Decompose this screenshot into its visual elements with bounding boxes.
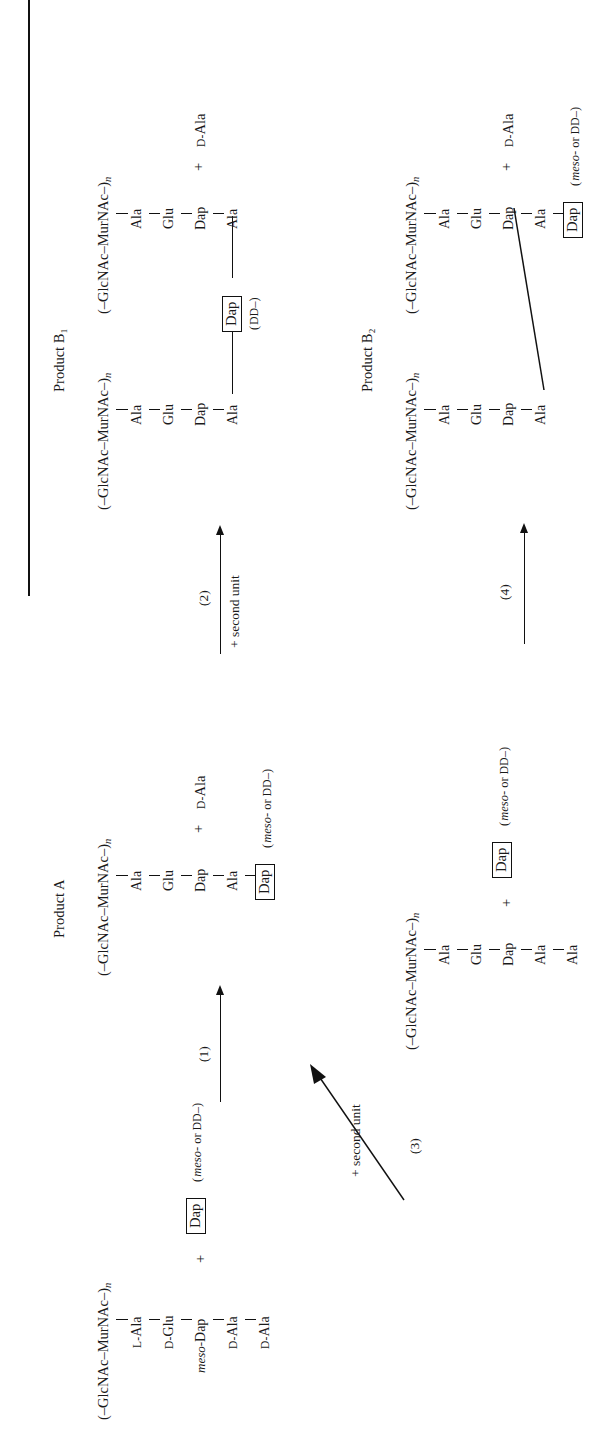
arrow-2-head <box>216 525 224 535</box>
acceptor-stereo-note: ( meso- or DD–) <box>191 1103 204 1182</box>
pa-boxed-dap: Dap <box>255 864 275 900</box>
product-b2-title: Product B₂ <box>360 329 375 392</box>
pb1l-bond-1 <box>149 409 160 410</box>
product-a-backbone: (–GlcNAc–MurNAc–)n <box>96 839 114 976</box>
bond-glu-dap <box>181 1319 192 1320</box>
pa-boxed-note: ( meso- or DD–) <box>261 769 274 848</box>
int-bond-0 <box>424 949 436 950</box>
pb1r-residue-ala1: Ala <box>129 209 145 229</box>
pa-residue-glu: Glu <box>161 870 177 891</box>
pb1r-residue-dap: Dap <box>193 207 209 230</box>
pa-bond-0 <box>116 875 128 876</box>
int-residue-glu: Glu <box>469 944 485 965</box>
pb2l-bond-0 <box>424 409 436 410</box>
arrow-4-number: (4) <box>498 584 512 600</box>
pb1r-bond-3 <box>213 213 224 214</box>
pb1r-bond-2 <box>181 213 192 214</box>
pb2l-bond-1 <box>457 409 468 410</box>
pb2-crosslink-svg <box>496 204 548 394</box>
pb2r-residue-ala4: Ala <box>533 209 549 229</box>
bond-backbone-ala <box>116 1319 128 1320</box>
arrow-2-number: (2) <box>197 590 211 606</box>
arrow-1-number: (1) <box>197 1046 211 1062</box>
pb1l-residue-dap: Dap <box>193 403 209 426</box>
pa-residue-ala1: Ala <box>129 871 145 891</box>
pb1-released-d-ala: D-Ala <box>193 114 208 147</box>
pb1l-bond-3 <box>213 409 224 410</box>
pa-released-plus: + <box>191 825 206 833</box>
pb2r-bond-1 <box>457 213 468 214</box>
int-acceptor-dap-box: Dap <box>492 842 512 878</box>
pb2r-bond-2 <box>489 213 500 214</box>
int-bond-1 <box>457 949 468 950</box>
pa-released-d-ala: D-Ala <box>193 776 208 809</box>
pb2-boxed-dap: Dap <box>563 202 583 238</box>
int-plus: + <box>499 899 514 907</box>
arrow-1-line <box>220 994 221 1102</box>
int-acceptor-note: ( meso- or DD–) <box>498 747 511 826</box>
arrow-4-head <box>520 523 528 533</box>
figure-page: (–GlcNAc–MurNAc–)n L-Ala D-Glu meso-Dap … <box>0 0 596 1454</box>
pb2r-residue-glu: Glu <box>469 208 485 229</box>
int-residue-ala4: Ala <box>533 945 549 965</box>
pa-residue-dap: Dap <box>193 869 209 892</box>
arrow-3-caption: + second unit <box>349 1104 363 1177</box>
int-residue-ala1: Ala <box>437 945 453 965</box>
pb2l-residue-ala1: Ala <box>437 405 453 425</box>
pb2r-bond-3 <box>521 213 532 214</box>
pb2-boxed-note: ( meso- or DD–) <box>569 107 582 186</box>
pb1r-residue-glu: Glu <box>161 208 177 229</box>
pb1-bridge-note: ( DD–) <box>248 297 261 330</box>
residue-d-glu: D-Glu <box>161 1315 177 1349</box>
pb1-left-backbone: (–GlcNAc–MurNAc–)n <box>96 373 114 510</box>
acceptor-dap-box: Dap <box>186 1198 206 1234</box>
pb2-released-plus: + <box>499 163 514 171</box>
pb2-left-backbone: (–GlcNAc–MurNAc–)n <box>404 373 422 510</box>
pb1l-residue-ala1: Ala <box>129 405 145 425</box>
product-a-title: Product A <box>52 880 67 938</box>
pb2-right-backbone: (–GlcNAc–MurNAc–)n <box>404 177 422 314</box>
pb2r-bond-0 <box>424 213 436 214</box>
pb2r-residue-ala1: Ala <box>437 209 453 229</box>
pb2r-residue-dap: Dap <box>501 207 517 230</box>
substrate-backbone: (–GlcNAc–MurNAc–)n <box>96 1283 114 1420</box>
pa-residue-ala4: Ala <box>225 871 241 891</box>
residue-d-ala-5: D-Ala <box>257 1316 273 1349</box>
pb2l-residue-dap: Dap <box>501 403 517 426</box>
substrate-plus: + <box>193 1255 208 1263</box>
pa-bond-1 <box>149 875 160 876</box>
int-residue-dap: Dap <box>501 943 517 966</box>
pb1-right-backbone: (–GlcNAc–MurNAc–)n <box>96 177 114 314</box>
pb2l-bond-2 <box>489 409 500 410</box>
arrow-2-caption: + second unit <box>228 575 242 648</box>
pb2l-residue-ala4: Ala <box>533 405 549 425</box>
int-backbone: (–GlcNAc–MurNAc–)n <box>404 913 422 1050</box>
arrow-1-head <box>216 985 224 995</box>
pa-bond-2 <box>181 875 192 876</box>
pb1l-residue-glu: Glu <box>161 404 177 425</box>
int-residue-ala5: Ala <box>565 945 581 965</box>
pb1r-bond-1 <box>149 213 160 214</box>
pb1l-bond-0 <box>116 409 128 410</box>
pa-bond-3 <box>213 875 224 876</box>
int-bond-4 <box>553 949 564 950</box>
arrow-3-number: (3) <box>408 1138 422 1154</box>
int-bond-3 <box>521 949 532 950</box>
pb1r-residue-ala4: Ala <box>225 209 241 229</box>
pb1r-bond-0 <box>116 213 128 214</box>
pb1-bridge-left <box>232 332 233 394</box>
pb1-released-plus: + <box>191 163 206 171</box>
residue-d-ala-4: D-Ala <box>225 1316 241 1349</box>
bond-ala4-ala5 <box>245 1319 256 1320</box>
residue-l-ala: L-Ala <box>129 1317 145 1348</box>
bond-ala-glu <box>149 1319 160 1320</box>
int-bond-2 <box>489 949 500 950</box>
pb2-released-d-ala: D-Ala <box>501 114 516 147</box>
rotated-scheme-canvas: (–GlcNAc–MurNAc–)n L-Ala D-Glu meso-Dap … <box>0 0 596 1454</box>
pb2l-bond-3 <box>521 409 532 410</box>
product-b1-title: Product B₁ <box>52 329 67 392</box>
pb1l-residue-ala4: Ala <box>225 405 241 425</box>
bond-dap-ala4 <box>213 1319 224 1320</box>
arrow-2-line <box>220 534 221 654</box>
arrow-4-line <box>524 532 525 644</box>
